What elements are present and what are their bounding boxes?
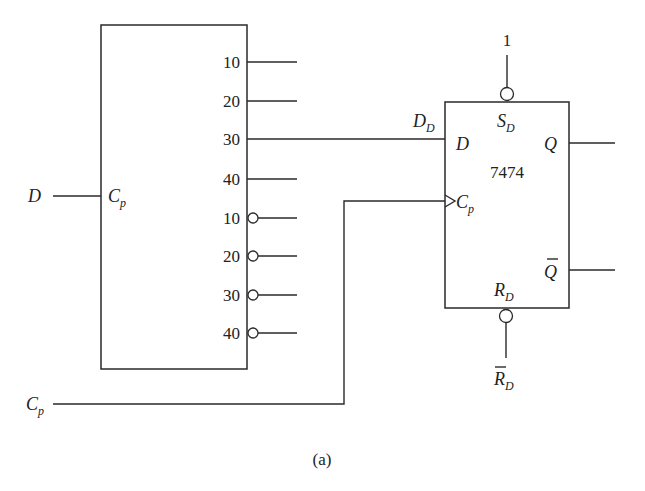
reset-label: RD [493,280,514,304]
figure-caption: (a) [313,450,332,469]
clock-input-label: Cp [26,394,44,418]
svg-text:20: 20 [223,92,240,111]
output-30-inverted: 30 [223,286,297,305]
inversion-bubble-icon [248,328,258,338]
set-inversion-bubble-icon [501,88,514,101]
block-clock-label: Cp [108,186,126,210]
clock-edge-triangle-icon [445,195,455,207]
q-label: Q [544,134,557,154]
svg-text:10: 10 [223,53,240,72]
svg-text:30: 30 [223,286,240,305]
output-10: 10 [223,53,297,72]
clock-wire [53,201,445,404]
output-10-inverted: 10 [223,209,297,228]
svg-text:10: 10 [223,209,240,228]
svg-text:20: 20 [223,247,240,266]
svg-text:30: 30 [223,130,240,149]
output-40-inverted: 40 [223,324,297,343]
set-label: SD [497,111,515,135]
output-40: 40 [223,170,297,189]
qbar-label: Q [544,262,557,282]
output-20: 20 [223,92,297,111]
output-30: 30 [223,130,445,149]
logic-diagram: D Cp 10 20 30 40 10 20 30 40 7474 1 [0,0,645,491]
reset-input-label: RD [493,369,514,393]
reset-inversion-bubble-icon [500,310,513,323]
data-net-label: DD [412,111,435,135]
part-number: 7474 [490,163,525,182]
svg-text:40: 40 [223,324,240,343]
set-value: 1 [503,31,512,50]
inversion-bubble-icon [248,290,258,300]
svg-text:40: 40 [223,170,240,189]
output-20-inverted: 20 [223,247,297,266]
inversion-bubble-icon [248,213,258,223]
ff-clock-label: Cp [456,192,474,216]
inversion-bubble-icon [248,251,258,261]
data-pin-label: D [455,134,469,154]
input-d-label: D [27,186,41,206]
